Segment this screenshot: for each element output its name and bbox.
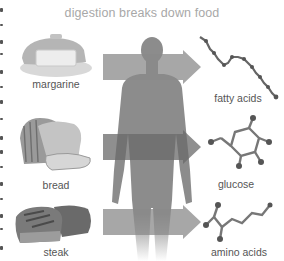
arrow-steak-to-amino-acids [103,205,203,239]
arrow-bread-to-glucose [103,130,203,164]
margarine-tub-icon [16,34,94,78]
product-label-amino-acids: amino acids [206,246,272,258]
arrow-margarine-to-fatty-acids [103,50,203,84]
fatty-acid-molecule-icon [198,33,284,101]
clipped-text-fragments [0,0,6,261]
food-label-bread: bread [26,179,86,191]
amino-acid-molecule-icon [200,195,280,245]
product-label-fatty-acids: fatty acids [208,92,268,104]
bread-loaf-icon [18,116,94,172]
food-label-steak: steak [26,246,86,258]
product-label-glucose: glucose [206,178,266,190]
glucose-molecule-icon [205,112,275,172]
diagram-title: digestion breaks down food [0,6,284,20]
steak-icon [14,199,94,245]
food-label-margarine: margarine [26,78,86,90]
